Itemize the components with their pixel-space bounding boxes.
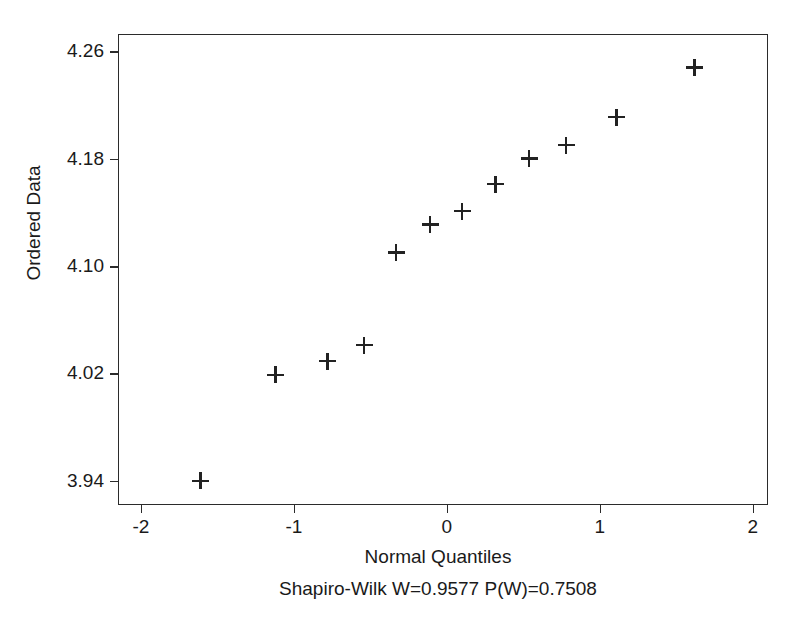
y-tick-mark <box>110 159 118 160</box>
y-tick-label: 3.94 <box>34 470 104 492</box>
x-tick-label: -2 <box>111 516 171 538</box>
x-tick-mark <box>753 505 754 513</box>
x-tick-label: 0 <box>417 516 477 538</box>
y-tick-label: 4.26 <box>34 40 104 62</box>
shapiro-wilk-statistic-text: Shapiro-Wilk W=0.9577 P(W)=0.7508 <box>279 578 597 600</box>
plot-frame <box>118 34 768 505</box>
y-tick-mark <box>110 266 118 267</box>
x-axis-label: Normal Quantiles <box>0 546 802 568</box>
x-tick-mark <box>447 505 448 513</box>
x-axis-label-text: Normal Quantiles <box>365 546 512 568</box>
x-tick-mark <box>600 505 601 513</box>
y-axis-label: Ordered Data <box>23 143 45 303</box>
y-tick-mark <box>110 51 118 52</box>
x-tick-label: 1 <box>570 516 630 538</box>
x-tick-label: 2 <box>723 516 783 538</box>
chart-subtitle: Shapiro-Wilk W=0.9577 P(W)=0.7508 <box>0 578 802 600</box>
y-tick-label: 4.02 <box>34 362 104 384</box>
x-tick-mark <box>294 505 295 513</box>
y-tick-mark <box>110 373 118 374</box>
x-tick-label: -1 <box>264 516 324 538</box>
y-tick-mark <box>110 481 118 482</box>
x-tick-mark <box>141 505 142 513</box>
qq-plot-figure: -2-1012 3.944.024.104.184.26 Normal Quan… <box>0 0 802 628</box>
